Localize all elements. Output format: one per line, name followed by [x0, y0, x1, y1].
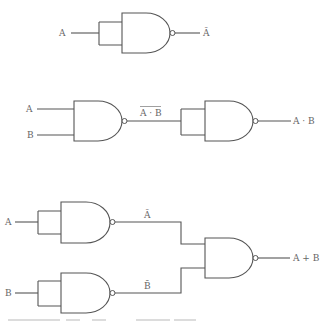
nand-logic-diagram: A Ā A B A · B A · B A Ā B	[0, 0, 329, 322]
intermediate-label: A · B	[139, 108, 162, 118]
input-label-a: A	[4, 217, 12, 227]
nand-gate-a	[61, 202, 110, 243]
output-label: Ā	[202, 27, 210, 38]
output-label: A + B	[292, 253, 320, 263]
nand-gate-2	[205, 101, 253, 141]
label-not-b: B̄	[144, 280, 151, 291]
input-label-a: A	[25, 104, 33, 114]
input-label-b: B	[5, 288, 12, 298]
input-tie-wire	[99, 22, 122, 45]
input-label-a: A	[58, 28, 66, 38]
inversion-bubble	[170, 31, 175, 36]
inversion-bubble-2	[253, 119, 258, 124]
circuit-and: A B A · B A · B	[25, 101, 315, 141]
input-tie-wire-a	[38, 211, 61, 234]
input-tie-wire-b	[38, 281, 61, 306]
inversion-bubble-b	[110, 291, 115, 296]
output-label: A · B	[292, 116, 315, 126]
nand-gate-b	[61, 273, 110, 313]
nand-gate	[122, 13, 170, 53]
nand-gate-1	[74, 101, 122, 141]
inversion-bubble-1	[122, 119, 127, 124]
circuit-or: A Ā B B̄ A + B	[4, 202, 320, 313]
circuit-not: A Ā	[58, 13, 210, 53]
label-not-a: Ā	[143, 209, 151, 220]
input-tie-wire	[181, 109, 205, 135]
inversion-bubble-final	[253, 256, 258, 261]
inversion-bubble-a	[110, 220, 115, 225]
wire-not-b	[115, 268, 205, 293]
wire-not-a	[115, 222, 205, 244]
input-label-b: B	[27, 130, 34, 140]
nand-gate-final	[205, 238, 253, 278]
